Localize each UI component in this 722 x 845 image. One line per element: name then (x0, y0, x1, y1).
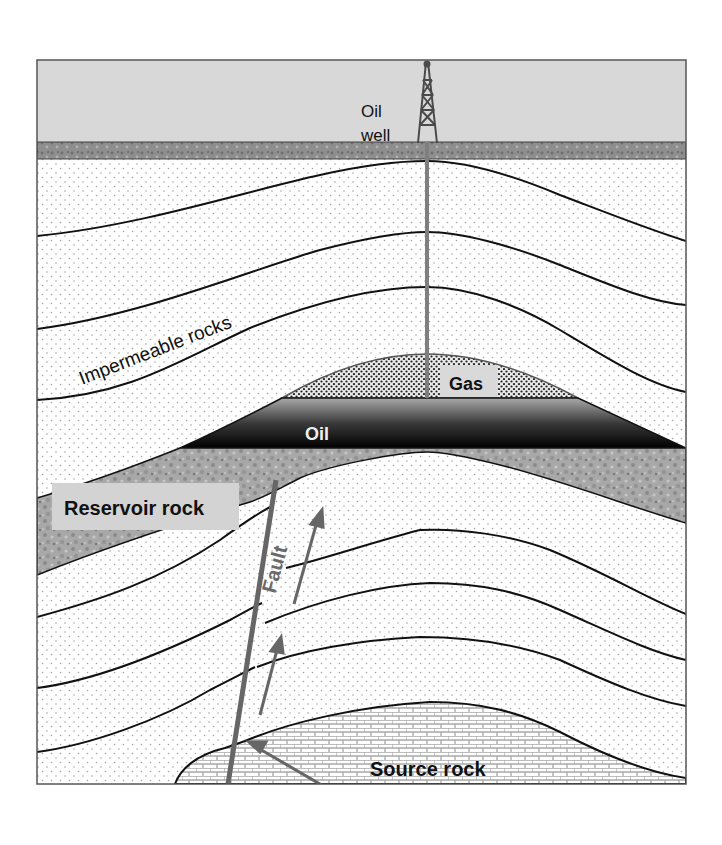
gas-label: Gas (449, 374, 483, 394)
source-rock-label: Source rock (370, 758, 486, 780)
oil-well-label-2: well (360, 126, 390, 145)
petroleum-trap-diagram: Oil well Impermeable rocks Gas Oil Reser… (0, 0, 722, 845)
oil-label: Oil (305, 424, 329, 444)
reservoir-rock-label: Reservoir rock (64, 497, 205, 519)
oil-well-label: Oil (361, 102, 382, 121)
